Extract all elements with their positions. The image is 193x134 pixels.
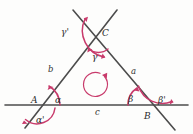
angle-label-beta: β [128, 95, 133, 104]
vertex-label-A: A [31, 96, 38, 105]
angle-label-alpha-prime: α' [36, 116, 45, 125]
side-label-b: b [48, 65, 53, 74]
geometry-figure: A B C a b c α α' β β' γ γ' [0, 0, 193, 134]
side-label-a: a [131, 67, 136, 76]
vertex-label-C: C [102, 29, 109, 38]
rotation-arrow-head [102, 73, 107, 79]
angle-label-beta-prime: β' [158, 96, 166, 105]
angle-label-gamma-prime: γ' [61, 28, 69, 37]
line-through-B-and-C [73, 10, 175, 130]
arc-beta-prime [139, 86, 173, 103]
angle-label-gamma: γ [92, 53, 97, 62]
vertex-label-B: B [144, 112, 151, 121]
angle-label-alpha: α [55, 96, 61, 105]
side-label-c: c [95, 108, 100, 117]
